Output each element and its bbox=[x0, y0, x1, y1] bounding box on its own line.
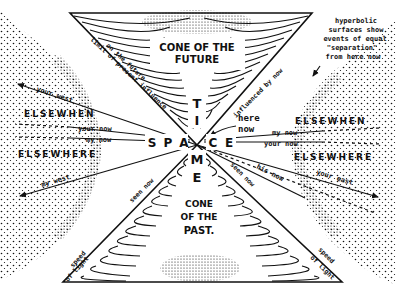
svg-text:E: E bbox=[225, 136, 233, 150]
past-cone-label-2: OF THE bbox=[181, 212, 218, 222]
hyperbolic-line-5: from here now bbox=[326, 53, 382, 61]
hyperbolic-line-2: surfaces show bbox=[329, 26, 385, 34]
hyperbolic-line-3: events of equal bbox=[323, 35, 386, 43]
light-cone-diagram: CONE OF THE FUTURE CONE OF THE PAST. bbox=[0, 0, 396, 296]
left-elsewhere-region bbox=[0, 10, 102, 280]
now-label: now bbox=[238, 124, 255, 134]
left-your-now-label: your now bbox=[78, 125, 113, 133]
future-cone-label-1: CONE OF THE bbox=[159, 42, 235, 53]
svg-text:E: E bbox=[193, 170, 202, 185]
future-cone-label-2: FUTURE bbox=[175, 54, 220, 65]
past-cone-label-3: PAST. bbox=[184, 225, 214, 236]
svg-text:C: C bbox=[209, 136, 218, 150]
svg-text:I: I bbox=[195, 113, 200, 128]
right-my-now-label: my now bbox=[272, 129, 298, 137]
svg-text:M: M bbox=[191, 152, 204, 167]
past-cone-label-1: CONE bbox=[185, 199, 213, 209]
svg-text:P: P bbox=[164, 136, 173, 150]
right-your-now-label: your now bbox=[264, 140, 299, 148]
hyperbolic-line-4: "separation" bbox=[327, 44, 378, 52]
hyperbolic-pointer bbox=[313, 66, 320, 76]
left-my-now-label: my now bbox=[86, 136, 112, 144]
svg-text:A: A bbox=[179, 136, 189, 150]
svg-text:S: S bbox=[148, 136, 157, 150]
here-label: here bbox=[238, 113, 260, 123]
hyperbolic-line-1: hyperbolic bbox=[335, 17, 377, 25]
left-elsewhere-label: ELSEWHERE bbox=[18, 149, 97, 159]
right-elsewhen-label: ELSEWHEN bbox=[295, 116, 367, 126]
right-elsewhere-label: ELSEWHERE bbox=[294, 152, 373, 162]
left-elsewhen-label: ELSEWHEN bbox=[24, 109, 96, 119]
svg-text:T: T bbox=[193, 96, 202, 111]
